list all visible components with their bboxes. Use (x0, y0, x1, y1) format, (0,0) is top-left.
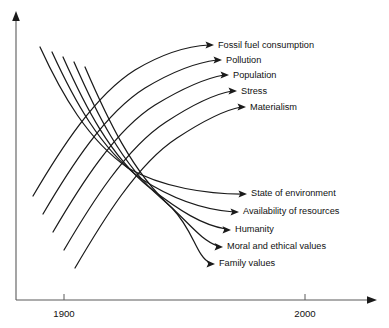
rising-curves-group (33, 42, 246, 268)
label-fossil-fuel-consumption: Fossil fuel consumption (218, 40, 314, 50)
label-state-of-environment: State of environment (251, 188, 336, 198)
y-axis-arrow (12, 11, 20, 21)
label-humanity: Humanity (235, 224, 274, 234)
label-moral-and-ethical-values: Moral and ethical values (227, 241, 326, 251)
curve-humanity (63, 57, 226, 229)
trends-diagram: 1900 2000 (0, 0, 389, 328)
label-stress: Stress (241, 86, 267, 96)
x-tick-label-2000: 2000 (294, 308, 315, 319)
labels-group: Fossil fuel consumption Pollution Popula… (218, 40, 340, 268)
curve-availability-of-resources (52, 52, 234, 212)
label-population: Population (233, 70, 276, 80)
curve-pollution (43, 60, 217, 214)
diagram-canvas: 1900 2000 (0, 0, 389, 328)
label-pollution: Pollution (226, 55, 261, 65)
curve-state-of-environment (40, 47, 242, 194)
curve-stress (64, 91, 232, 250)
x-tick-label-1900: 1900 (53, 308, 74, 319)
x-axis-arrow (367, 296, 377, 304)
arrowhead-moral-and-ethical-values (215, 243, 224, 251)
label-family-values: Family values (219, 258, 276, 268)
label-materialism: Materialism (250, 102, 297, 112)
falling-curves-group (40, 47, 247, 268)
curve-population (53, 75, 224, 232)
axes-group: 1900 2000 (12, 11, 377, 319)
arrowhead-humanity (223, 226, 232, 233)
arrowhead-family-values (207, 260, 216, 267)
label-availability-of-resources: Availability of resources (243, 206, 340, 216)
